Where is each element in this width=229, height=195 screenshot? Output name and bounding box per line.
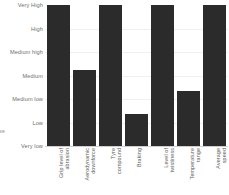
- bar-slot: [45, 5, 71, 146]
- x-axis-tick-label-line: Braking: [136, 148, 142, 167]
- bar-slot: [150, 5, 176, 146]
- x-axis-tick-label: Aerodynamicdownforce: [84, 148, 96, 181]
- x-axis-tick-slot: Temperaturerange: [176, 148, 202, 195]
- x-axis-tick-label-line: speed: [221, 148, 227, 169]
- x-axis-tick-label-line: compound: [116, 148, 122, 174]
- x-axis-tick-label-line: Average: [215, 148, 221, 169]
- x-axis: Grip level ofabrasionAerodynamicdownforc…: [45, 148, 228, 195]
- bar[interactable]: [151, 5, 174, 146]
- y-axis-tick-label: Medium low: [12, 96, 43, 102]
- bar[interactable]: [73, 70, 96, 146]
- bar-series: [45, 5, 228, 146]
- y-axis-tick-label: Low: [32, 120, 43, 126]
- bar-slot: [202, 5, 228, 146]
- y-axis-tick-label: High: [31, 26, 43, 32]
- y-axis-tick-label: Medium high: [10, 49, 43, 55]
- x-axis-tick-label-line: abrasion: [64, 148, 70, 178]
- x-axis-tick-label: Braking: [136, 148, 142, 167]
- bar[interactable]: [47, 5, 70, 146]
- bar-slot: [71, 5, 97, 146]
- y-axis: Very HighHighMedium highMediumMedium low…: [0, 0, 43, 195]
- x-axis-tick-slot: Grip level ofabrasion: [45, 148, 71, 195]
- y-axis-tick-label: Very low: [21, 143, 43, 149]
- bar-slot: [97, 5, 123, 146]
- x-axis-tick-label: Level oftwistiness: [163, 148, 175, 172]
- x-axis-tick-label-line: Level of: [163, 148, 169, 172]
- plot-area: [45, 5, 228, 146]
- bar-slot: [176, 5, 202, 146]
- bar[interactable]: [99, 5, 122, 146]
- x-axis-tick-label-line: Temperature: [189, 148, 195, 179]
- x-axis-tick-label-line: downforce: [90, 148, 96, 181]
- x-axis-tick-label: Averagespeed: [215, 148, 227, 169]
- x-axis-line: [45, 146, 228, 147]
- y-axis-tick-label: Medium: [23, 73, 44, 79]
- x-axis-tick-slot: Braking: [123, 148, 149, 195]
- bar[interactable]: [203, 5, 226, 146]
- x-axis-tick-label-line: range: [195, 148, 201, 179]
- bar-slot: [123, 5, 149, 146]
- x-axis-tick-label-line: twistiness: [169, 148, 175, 172]
- bar[interactable]: [177, 91, 200, 146]
- x-axis-tick-label: Temperaturerange: [189, 148, 201, 179]
- x-axis-tick-label: Grip level ofabrasion: [58, 148, 70, 178]
- bar[interactable]: [125, 114, 148, 146]
- y-axis-tick-label: Very High: [18, 2, 43, 8]
- x-axis-tick-slot: Aerodynamicdownforce: [71, 148, 97, 195]
- x-axis-tick-slot: Averagespeed: [202, 148, 228, 195]
- x-axis-tick-slot: Tyrecompound: [97, 148, 123, 195]
- x-axis-tick-label: Tyrecompound: [110, 148, 122, 174]
- x-axis-tick-slot: Level oftwistiness: [150, 148, 176, 195]
- bar-chart: we Very HighHighMedium highMediumMedium …: [0, 0, 229, 195]
